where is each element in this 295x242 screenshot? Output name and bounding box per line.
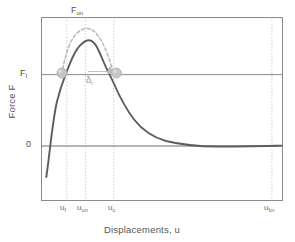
- x-tick-uc-sub: c: [112, 207, 115, 213]
- x-tick-label-ulin: ulin: [264, 203, 274, 212]
- y-tick-label-Ff: Ff: [20, 68, 27, 78]
- x-tick-uun-sub: un: [81, 207, 87, 213]
- peak-force-base: F: [71, 5, 77, 15]
- y-tick-Ff-sub: f: [26, 73, 28, 79]
- plot-frame: [42, 18, 283, 201]
- y-axis-title: Force F: [6, 72, 17, 132]
- force-displacement-figure: Fun δt Ff 0 uf uun uc ulin Force F Displ…: [0, 0, 295, 242]
- x-tick-label-uun: uun: [77, 203, 88, 212]
- x-tick-uf-sub: f: [64, 207, 66, 213]
- x-tick-label-uc: uc: [108, 203, 115, 212]
- x-tick-ulin-sub: lin: [268, 207, 274, 213]
- peak-force-label: Fun: [71, 5, 83, 15]
- marker-ball-left: [57, 68, 67, 78]
- x-tick-label-uf: uf: [60, 203, 66, 212]
- marker-ball-right: [112, 68, 122, 78]
- delta-annotation: δt: [86, 75, 93, 85]
- y-tick-Ff-base: F: [20, 68, 26, 78]
- peak-force-sub: un: [77, 10, 84, 16]
- x-axis-title: Displacements, u: [104, 224, 180, 235]
- delta-subscript: t: [91, 80, 93, 86]
- y-tick-label-zero: 0: [26, 139, 31, 149]
- chart-canvas: [0, 0, 295, 242]
